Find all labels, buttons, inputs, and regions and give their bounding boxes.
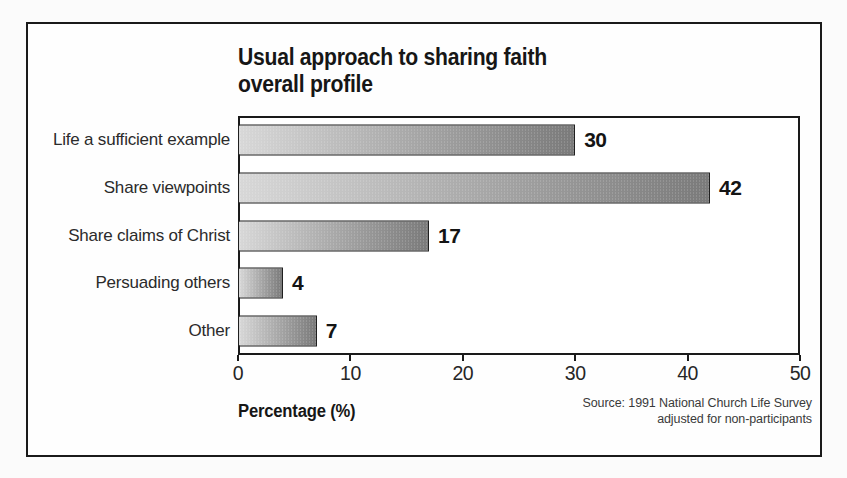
category-label: Persuading others bbox=[34, 273, 230, 293]
category-label: Life a sufficient example bbox=[34, 130, 230, 150]
value-label: 7 bbox=[326, 319, 337, 343]
chart-title: Usual approach to sharing faith overall … bbox=[238, 44, 547, 98]
x-axis-tick-mark bbox=[574, 355, 576, 361]
x-axis-tick-mark bbox=[799, 355, 801, 361]
x-axis-tick-mark bbox=[687, 355, 689, 361]
bar-2 bbox=[238, 220, 429, 251]
bar-0 bbox=[238, 124, 575, 155]
x-axis-tick-label: 40 bbox=[658, 362, 718, 385]
value-label: 17 bbox=[438, 224, 460, 248]
category-label: Other bbox=[34, 321, 230, 341]
chart-page: Usual approach to sharing faith overall … bbox=[0, 0, 847, 478]
bar-3 bbox=[238, 268, 283, 299]
category-label: Share viewpoints bbox=[34, 178, 230, 198]
bar-4 bbox=[238, 316, 317, 347]
bar-1 bbox=[238, 172, 710, 203]
source-note-line-1: Source: 1991 National Church Life Survey bbox=[583, 396, 812, 412]
source-note: Source: 1991 National Church Life Survey… bbox=[583, 396, 812, 427]
x-axis-tick-mark bbox=[349, 355, 351, 361]
source-note-line-2: adjusted for non-participants bbox=[583, 412, 812, 428]
x-axis-tick-label: 0 bbox=[208, 362, 268, 385]
x-axis-title: Percentage (%) bbox=[238, 401, 355, 422]
x-axis-tick-mark bbox=[237, 355, 239, 361]
category-label: Share claims of Christ bbox=[34, 226, 230, 246]
chart-title-line-2: overall profile bbox=[238, 71, 547, 98]
x-axis-tick-label: 20 bbox=[433, 362, 493, 385]
x-axis-tick-mark bbox=[462, 355, 464, 361]
chart-title-line-1: Usual approach to sharing faith bbox=[238, 44, 547, 71]
value-label: 30 bbox=[584, 128, 606, 152]
value-label: 42 bbox=[719, 176, 741, 200]
x-axis-tick-label: 30 bbox=[545, 362, 605, 385]
x-axis-tick-label: 10 bbox=[320, 362, 380, 385]
x-axis-tick-label: 50 bbox=[770, 362, 830, 385]
value-label: 4 bbox=[292, 271, 303, 295]
